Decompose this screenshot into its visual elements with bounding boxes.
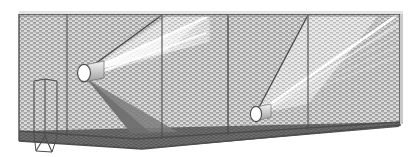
enclosure-diagram (0, 0, 418, 157)
illustration-canvas (0, 0, 418, 157)
